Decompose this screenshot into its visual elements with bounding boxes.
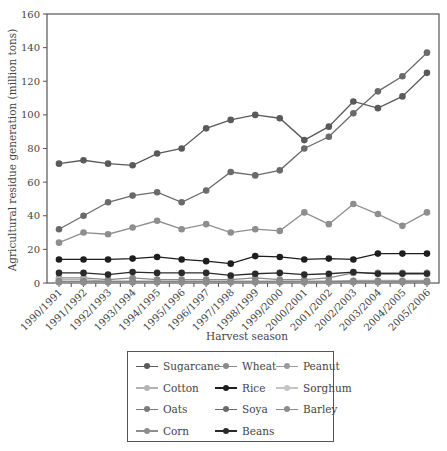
plot-frame: [47, 14, 439, 283]
data-point: [301, 209, 308, 216]
data-point: [399, 93, 406, 100]
data-point: [375, 279, 382, 286]
data-point: [56, 256, 63, 263]
y-tick-label: 120: [21, 76, 40, 87]
data-point: [375, 105, 382, 112]
data-point: [56, 160, 63, 167]
legend-item-cotton: Cotton: [136, 381, 199, 395]
series-sugarcane: [56, 70, 431, 169]
data-point: [80, 157, 87, 164]
y-tick-label: 0: [34, 278, 40, 289]
data-point: [252, 270, 259, 277]
legend-swatch-icon: [136, 383, 158, 393]
data-point: [154, 150, 161, 157]
data-point: [375, 211, 382, 218]
legend-swatch-icon: [136, 361, 158, 371]
data-point: [276, 270, 283, 277]
data-point: [129, 162, 136, 169]
data-point: [301, 271, 308, 278]
data-point: [80, 229, 87, 236]
x-axis: 1990/19911991/19921992/19931993/19941994…: [18, 283, 432, 333]
legend-swatch-icon: [215, 404, 237, 414]
series-corn: [56, 201, 431, 246]
data-point: [129, 279, 136, 286]
data-point: [203, 125, 210, 132]
data-point: [56, 226, 63, 233]
legend-item-sugarcane: Sugarcane: [136, 359, 220, 373]
data-point: [227, 117, 234, 124]
data-point: [227, 169, 234, 176]
series-beans: [56, 269, 431, 279]
y-tick-label: 40: [27, 210, 40, 221]
data-point: [276, 279, 283, 286]
legend-label: Corn: [163, 425, 189, 437]
data-point: [424, 49, 431, 56]
data-point: [227, 279, 234, 286]
legend-item-oats: Oats: [136, 402, 187, 416]
data-point: [252, 172, 259, 179]
data-point: [154, 270, 161, 277]
data-point: [178, 145, 185, 152]
legend-swatch-icon: [136, 426, 158, 436]
data-point: [252, 253, 259, 260]
y-tick-label: 160: [21, 9, 40, 20]
data-point: [178, 226, 185, 233]
chart-legend: SugarcaneCottonOatsCornWheatRiceSoyaBean…: [127, 351, 334, 442]
series-rice: [56, 250, 431, 267]
data-point: [350, 269, 357, 276]
legend-item-sorghum: Sorghum: [276, 381, 352, 395]
data-point: [424, 279, 431, 286]
legend-item-soya: Soya: [215, 402, 268, 416]
data-point: [105, 160, 112, 167]
data-point: [276, 254, 283, 261]
data-point: [326, 279, 333, 286]
data-point: [105, 231, 112, 238]
data-point: [80, 212, 87, 219]
data-point: [350, 256, 357, 263]
y-tick-label: 60: [27, 177, 40, 188]
data-point: [375, 250, 382, 257]
legend-swatch-icon: [276, 361, 298, 371]
data-point: [203, 270, 210, 277]
legend-item-wheat: Wheat: [215, 359, 276, 373]
legend-label: Rice: [242, 382, 265, 394]
data-point: [203, 221, 210, 228]
y-tick-label: 20: [27, 244, 40, 255]
data-point: [227, 260, 234, 267]
series-layer: [56, 49, 431, 285]
data-point: [105, 271, 112, 278]
legend-label: Sorghum: [303, 382, 352, 394]
plot-border: [47, 14, 439, 283]
data-point: [56, 279, 63, 286]
data-point: [350, 201, 357, 208]
data-point: [350, 279, 357, 286]
data-point: [80, 256, 87, 263]
data-point: [178, 270, 185, 277]
legend-label: Wheat: [242, 360, 276, 372]
data-point: [129, 269, 136, 276]
data-point: [80, 279, 87, 286]
legend-label: Cotton: [163, 382, 199, 394]
data-point: [178, 256, 185, 263]
data-point: [301, 145, 308, 152]
data-point: [424, 70, 431, 77]
data-point: [105, 199, 112, 206]
data-point: [178, 279, 185, 286]
legend-item-peanut: Peanut: [276, 359, 340, 373]
data-point: [326, 133, 333, 140]
data-point: [399, 270, 406, 277]
legend-item-barley: Barley: [276, 402, 338, 416]
legend-swatch-icon: [136, 404, 158, 414]
data-point: [424, 270, 431, 277]
data-point: [326, 270, 333, 277]
data-point: [203, 187, 210, 194]
legend-swatch-icon: [215, 361, 237, 371]
data-point: [301, 137, 308, 144]
data-point: [252, 226, 259, 233]
data-point: [399, 73, 406, 80]
data-point: [375, 270, 382, 277]
data-point: [105, 279, 112, 286]
data-point: [276, 115, 283, 122]
legend-label: Soya: [242, 403, 268, 415]
y-tick-label: 100: [21, 109, 40, 120]
